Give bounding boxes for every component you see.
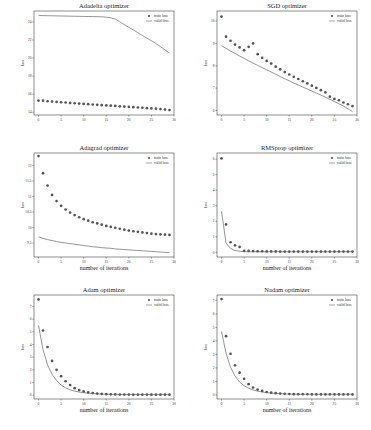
x-tick-label: 5: [243, 118, 245, 122]
train-marker-icon: [148, 15, 150, 17]
legend-train-label: train loss: [154, 298, 168, 302]
x-tick-label: 20: [127, 118, 131, 122]
x-tick-label: 0: [38, 402, 40, 406]
legend-valid-label: valid loss: [337, 19, 352, 23]
y-tick-label: 7: [30, 305, 32, 309]
y-axis-label: loss: [21, 344, 25, 350]
chart-panel-rmsprop: RMSprop optimizer0510152025300123456loss…: [203, 142, 371, 280]
x-tick-label: 20: [310, 118, 314, 122]
y-tick-label: 5: [213, 326, 215, 330]
chart-title: Adadelta optimizer: [79, 2, 130, 9]
y-tick-label: 7: [213, 86, 215, 90]
x-tick-label: 5: [60, 260, 62, 264]
y-tick-label: 2: [213, 366, 215, 370]
y-tick-label: 7: [213, 299, 215, 303]
y-tick-label: 10: [211, 19, 215, 23]
legend-train-label: train loss: [154, 14, 168, 18]
y-tick-label: 6: [30, 317, 32, 321]
chart-title: Adagrad optimizer: [80, 144, 130, 151]
x-tick-label: 20: [127, 402, 131, 406]
x-axis-label: number of iterations: [80, 265, 129, 271]
x-tick-label: 15: [104, 260, 108, 264]
x-tick-label: 5: [243, 260, 245, 264]
y-tick-label: 1: [213, 235, 215, 239]
y-tick-label: 6: [213, 312, 215, 316]
x-tick-label: 25: [333, 118, 337, 122]
valid-loss-line: [39, 325, 170, 394]
chart-panel-sgd: SGD optimizer051015202530678910losstrain…: [203, 0, 371, 138]
y-axis-label: loss: [204, 60, 208, 66]
y-tick-label: 10: [28, 226, 32, 230]
plot-area: [217, 295, 357, 399]
y-tick-label: 11.5: [25, 179, 31, 183]
y-tick-label: 18: [28, 74, 32, 78]
y-tick-label: 14: [28, 110, 32, 114]
x-axis-label: number of iterations: [263, 407, 312, 413]
legend-valid-label: valid loss: [154, 303, 169, 307]
legend-train-label: train loss: [154, 156, 168, 160]
chart-title: Adam optimizer: [83, 286, 126, 293]
legend-valid-label: valid loss: [154, 19, 169, 23]
y-tick-label: 3: [30, 355, 32, 359]
x-tick-label: 0: [221, 402, 223, 406]
legend-train-label: train loss: [337, 14, 351, 18]
plot-area: [217, 153, 357, 257]
x-tick-label: 25: [150, 118, 154, 122]
train-marker-icon: [331, 15, 333, 17]
y-tick-label: 2: [213, 219, 215, 223]
valid-loss-line: [39, 237, 170, 253]
y-tick-label: 0: [213, 251, 215, 255]
chart-panel-adadelta: Adadelta optimizer0510152025301416182022…: [20, 0, 188, 138]
x-tick-label: 30: [172, 402, 176, 406]
plot-area: [217, 11, 357, 115]
chart-panel-adam: Adam optimizer05101520253001234567lossnu…: [20, 284, 188, 422]
legend-valid-label: valid loss: [337, 303, 352, 307]
y-tick-label: 10.5: [25, 210, 31, 214]
y-tick-label: 16: [28, 92, 32, 96]
legend-train-label: train loss: [337, 156, 351, 160]
train-marker-icon: [148, 299, 150, 301]
x-tick-label: 0: [221, 260, 223, 264]
y-tick-label: 1: [30, 381, 32, 385]
legend-train-label: train loss: [337, 298, 351, 302]
y-axis-label: loss: [21, 202, 25, 208]
y-tick-label: 8: [213, 64, 215, 68]
x-tick-label: 10: [82, 260, 86, 264]
train-loss-markers: [37, 155, 171, 237]
legend-valid-label: valid loss: [337, 161, 352, 165]
x-tick-label: 5: [60, 118, 62, 122]
x-tick-label: 30: [355, 118, 359, 122]
train-loss-markers: [220, 298, 354, 396]
y-tick-label: 22: [28, 38, 32, 42]
x-tick-label: 20: [127, 260, 131, 264]
x-tick-label: 20: [310, 402, 314, 406]
x-tick-label: 10: [265, 260, 269, 264]
y-tick-label: 11: [28, 195, 32, 199]
plot-area: [34, 11, 174, 115]
y-tick-label: 4: [213, 339, 215, 343]
y-tick-label: 1: [213, 380, 215, 384]
x-tick-label: 25: [150, 402, 154, 406]
x-tick-label: 10: [265, 118, 269, 122]
y-tick-label: 9: [213, 42, 215, 46]
x-tick-label: 25: [333, 402, 337, 406]
y-tick-label: 12: [28, 164, 32, 168]
x-tick-label: 15: [287, 402, 291, 406]
x-tick-label: 15: [104, 402, 108, 406]
y-tick-label: 5: [213, 173, 215, 177]
y-tick-label: 24: [28, 20, 32, 24]
x-tick-label: 20: [310, 260, 314, 264]
x-tick-label: 30: [355, 260, 359, 264]
y-tick-label: 20: [28, 56, 32, 60]
x-tick-label: 30: [355, 402, 359, 406]
x-tick-label: 10: [82, 118, 86, 122]
x-tick-label: 30: [172, 260, 176, 264]
x-tick-label: 15: [287, 118, 291, 122]
x-tick-label: 10: [82, 402, 86, 406]
y-tick-label: 4: [30, 343, 32, 347]
x-tick-label: 10: [265, 402, 269, 406]
x-tick-label: 25: [150, 260, 154, 264]
valid-loss-line: [222, 211, 353, 252]
x-tick-label: 0: [38, 118, 40, 122]
y-tick-label: 6: [213, 157, 215, 161]
